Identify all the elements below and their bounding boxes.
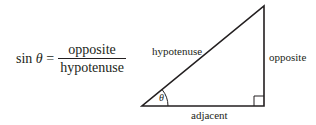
adjacent-label: adjacent <box>191 109 228 121</box>
right-angle-marker <box>254 96 264 106</box>
hypotenuse-label: hypotenuse <box>152 45 202 57</box>
opposite-label: opposite <box>269 51 306 63</box>
angle-theta-label: θ <box>159 92 164 103</box>
